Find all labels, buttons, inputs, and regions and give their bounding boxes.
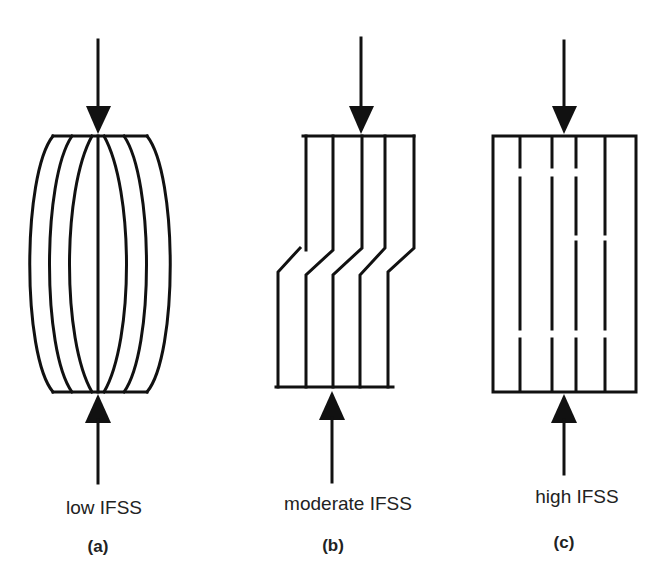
panel-c: high IFSS (c) xyxy=(493,41,636,552)
panel-b-label: moderate IFSS xyxy=(284,493,412,514)
panel-c-label: high IFSS xyxy=(535,486,618,507)
panel-a-tag: (a) xyxy=(88,537,109,556)
top-load-arrow xyxy=(86,40,111,134)
fragmented-fibers xyxy=(520,138,605,390)
bottom-load-arrow xyxy=(551,394,577,474)
bottom-load-arrow xyxy=(319,391,345,482)
panel-b: moderate IFSS (b) xyxy=(276,38,414,555)
panel-a: low IFSS (a) xyxy=(30,40,171,556)
top-load-arrow xyxy=(552,41,577,134)
panel-b-tag: (b) xyxy=(322,536,344,555)
bottom-load-arrow xyxy=(85,394,111,483)
panel-c-tag: (c) xyxy=(554,533,575,552)
buckled-fibers xyxy=(30,136,171,392)
ifss-diagram: low IFSS (a) moderate IFSS (b) xyxy=(0,0,669,586)
specimen-outline xyxy=(493,136,636,392)
panel-a-label: low IFSS xyxy=(66,497,142,518)
top-load-arrow xyxy=(349,38,374,134)
kinked-fibers xyxy=(278,136,414,387)
